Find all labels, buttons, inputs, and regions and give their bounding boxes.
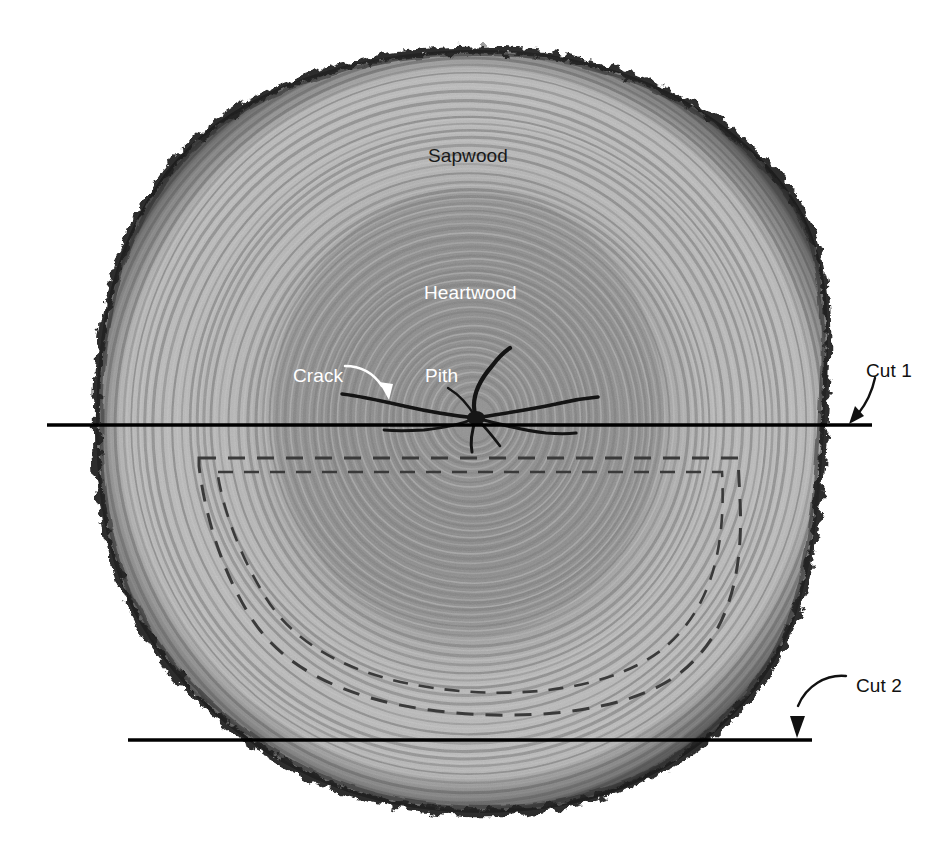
cut1-arrow (849, 378, 875, 424)
cut2-arrow (790, 676, 846, 738)
cross-section-canvas (0, 0, 948, 860)
log-cross-section-figure: Sapwood Heartwood Crack Pith Cut 1 Cut 2 (0, 0, 948, 860)
